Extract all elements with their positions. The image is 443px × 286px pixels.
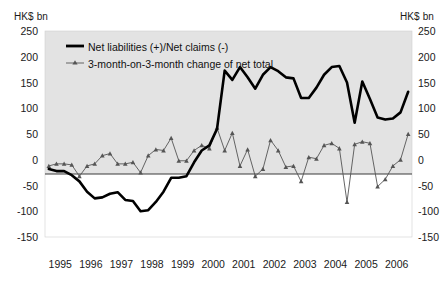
- y-tick-label-right: 250: [418, 26, 443, 36]
- y-tick-label-left: -150: [4, 232, 38, 242]
- y-tick-label-right: -50: [418, 181, 443, 191]
- y-tick-label-left: -50: [4, 181, 38, 191]
- y-tick-label-right: -150: [418, 232, 443, 242]
- y-tick-label-left: 100: [4, 103, 38, 113]
- y-tick-label-left: 50: [4, 129, 38, 139]
- y-tick-label-left: 250: [4, 26, 38, 36]
- legend-label-net-liabilities: Net liabilities (+)/Net claims (-): [88, 41, 228, 53]
- legend-label-3m-change: 3-month-on-3-month change of net total: [88, 58, 273, 70]
- y-tick-label-right: 100: [418, 103, 443, 113]
- y-tick-label-left: -100: [4, 206, 38, 216]
- chart-container: HK$ bn HK$ bn Net liabilities (+)/Net cl…: [0, 0, 443, 286]
- y-tick-label-left: 200: [4, 52, 38, 62]
- y-tick-label-right: 0: [418, 155, 443, 165]
- y-tick-label-left: 150: [4, 78, 38, 88]
- y-tick-label-right: 200: [418, 52, 443, 62]
- y-tick-label-left: 0: [4, 155, 38, 165]
- y-tick-label-right: 150: [418, 78, 443, 88]
- plot-background-negative: [45, 174, 412, 237]
- y-tick-label-right: -100: [418, 206, 443, 216]
- y-tick-label-right: 50: [418, 129, 443, 139]
- x-tick-label: 2006: [377, 259, 417, 269]
